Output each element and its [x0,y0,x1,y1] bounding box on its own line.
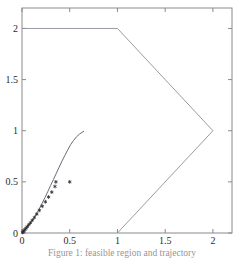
y-tick-label: 1 [13,125,18,136]
figure-container: 00.511.52 00.511.52 Figure 1: feasible r… [0,0,244,265]
y-axis-tick-labels: 00.511.52 [6,23,19,239]
figure-caption-area: Figure 1: feasible region and trajectory [0,248,244,265]
plot-canvas: 00.511.52 00.511.52 [0,0,244,265]
axis-box [22,8,232,233]
x-tick-label: 0 [20,235,25,246]
y-tick-label: 2 [13,23,18,34]
x-tick-label: 0.5 [63,235,76,246]
y-tick-label: 0.5 [6,176,19,187]
y-tick-label: 0 [13,228,18,239]
figure-caption: Figure 1: feasible region and trajectory [0,248,244,259]
x-tick-label: 1 [115,235,120,246]
y-tick-label: 1.5 [6,74,19,85]
axes-frame [22,8,232,233]
x-tick-label: 1.5 [159,235,172,246]
x-axis-tick-labels: 00.511.52 [20,235,216,246]
x-tick-label: 2 [210,235,215,246]
